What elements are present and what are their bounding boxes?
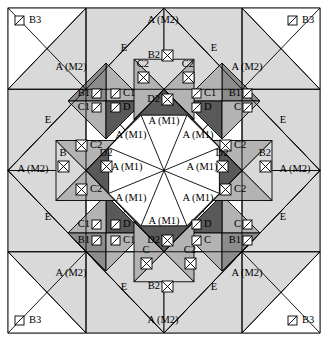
e-left-top: E <box>45 114 51 125</box>
tl-c1b: C1 <box>78 101 90 112</box>
tl-b1-marker <box>92 89 101 98</box>
br-c-marker <box>243 220 252 229</box>
right-b2-marker <box>260 161 271 172</box>
right-c2t: C2 <box>234 139 246 150</box>
a-m1-nw: A (M1) <box>115 129 147 141</box>
right-d2: D2 <box>216 147 229 158</box>
tr-b1-marker <box>243 89 252 98</box>
bot-cl-marker <box>141 258 152 269</box>
corner-tr-b3-marker <box>288 16 297 25</box>
bl-c1b-marker <box>111 236 120 245</box>
tr-c1: C1 <box>204 87 216 98</box>
bot-c2r: C2 <box>184 244 196 255</box>
tr-c1-marker <box>192 89 201 98</box>
a-m2-top-right: A (M2) <box>231 61 263 73</box>
top-c2r-marker <box>183 72 194 83</box>
tr-c: C <box>234 101 241 112</box>
diagram-canvas: A (M2)A (M2)A (M2)A (M2)A (M2)A (M2)A (M… <box>0 0 328 341</box>
corner-tl-b3: B3 <box>29 14 41 25</box>
corner-br-b3-marker <box>288 316 297 325</box>
a-m2-left-bot: A (M2) <box>55 267 87 279</box>
a-m2-left-mid: A (M2) <box>17 163 49 175</box>
bl-d: D <box>123 218 131 229</box>
bl-d-marker <box>111 220 120 229</box>
top-c2l: C2 <box>137 58 149 69</box>
br-b1: B1 <box>229 234 241 245</box>
a-m2-top-left: A (M2) <box>147 14 179 26</box>
tl-d: D <box>123 101 131 112</box>
right-c2b-marker <box>220 184 231 195</box>
right-d2-marker <box>217 161 228 172</box>
bot-cl: C <box>142 244 149 255</box>
tr-d: D <box>204 101 212 112</box>
a-m1-sw: A (M1) <box>115 192 147 204</box>
right-b2: B2 <box>259 147 271 158</box>
e-bottom-left: E <box>121 281 127 292</box>
e-bottom-right: E <box>211 281 217 292</box>
tl-b1: B1 <box>78 87 90 98</box>
corner-bl-b3-marker <box>15 316 24 325</box>
br-d-marker <box>192 220 201 229</box>
a-m1-ne: A (M1) <box>182 129 214 141</box>
left-c2b: C2 <box>90 183 102 194</box>
dissection-diagram: A (M2)A (M2)A (M2)A (M2)A (M2)A (M2)A (M… <box>0 0 328 341</box>
top-b2-marker <box>162 50 173 61</box>
br-b1-marker <box>243 236 252 245</box>
corner-bl-b3: B3 <box>29 314 41 325</box>
br-c: C <box>234 218 241 229</box>
e-top-right: E <box>211 42 217 53</box>
left-d2-marker <box>101 161 112 172</box>
a-m2-bottom: A (M2) <box>147 314 179 326</box>
a-m1-w: A (M1) <box>111 161 143 173</box>
a-m1-se: A (M1) <box>182 192 214 204</box>
bl-b1-marker <box>92 236 101 245</box>
top-c2l-marker <box>138 72 149 83</box>
right-c2b: C2 <box>234 183 246 194</box>
bl-b1: B1 <box>78 234 90 245</box>
e-top-left: E <box>121 42 127 53</box>
bot-b2: B2 <box>148 280 160 291</box>
corner-br-b3: B3 <box>302 314 314 325</box>
tl-c1-marker <box>111 89 120 98</box>
bl-c1: C1 <box>78 218 90 229</box>
a-m1-s: A (M1) <box>148 215 180 227</box>
tr-d-marker <box>192 103 201 112</box>
a-m2-right-bot: A (M2) <box>231 267 263 279</box>
corner-tl-b3-marker <box>15 16 24 25</box>
a-m2-left-top: A (M2) <box>55 61 87 73</box>
br-d: D <box>204 218 212 229</box>
left-c2t-marker <box>76 140 87 151</box>
bl-c1b: C1 <box>123 234 135 245</box>
left-c2b-marker <box>76 184 87 195</box>
e-left-bottom: E <box>45 211 51 222</box>
a-m1-n: A (M1) <box>148 115 180 127</box>
e-right-top: E <box>280 114 286 125</box>
top-d2: D2 <box>147 93 160 104</box>
bl-c1-marker <box>92 220 101 229</box>
bot-d2-marker <box>162 235 173 246</box>
br-c2: C <box>204 234 211 245</box>
a-m1-e: A (M1) <box>186 161 218 173</box>
top-b2: B2 <box>148 49 160 60</box>
tl-c1b-marker <box>92 103 101 112</box>
tr-c-marker <box>243 103 252 112</box>
a-m2-right-mid: A (M2) <box>279 163 311 175</box>
bot-c2r-marker <box>185 258 196 269</box>
corner-tr-b3: B3 <box>302 14 314 25</box>
bot-b2-marker <box>162 281 173 292</box>
tl-d-marker <box>111 103 120 112</box>
left-b-marker <box>58 161 69 172</box>
e-right-bottom: E <box>280 211 286 222</box>
top-c2r: C2 <box>182 58 194 69</box>
tr-b1: B1 <box>229 87 241 98</box>
left-d2: D2 <box>100 147 113 158</box>
tl-c1: C1 <box>123 87 135 98</box>
top-d2-marker <box>162 94 173 105</box>
left-b: B <box>59 147 66 158</box>
